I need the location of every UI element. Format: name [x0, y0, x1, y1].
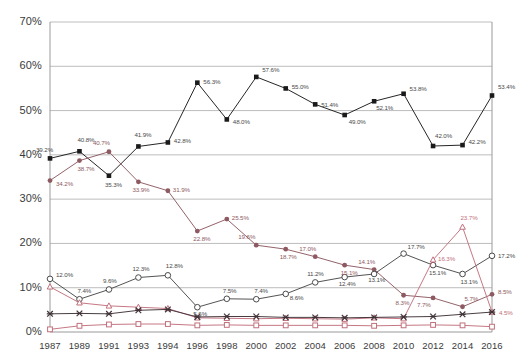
data-point-label: 56.3%: [203, 78, 220, 85]
data-point-label: 35.3%: [105, 181, 122, 188]
data-point-label: 53.4%: [498, 83, 515, 90]
x-axis-tick-label: 2016: [472, 340, 512, 351]
y-axis-tick-label: 30%: [2, 192, 42, 204]
data-point-label: 25.5%: [232, 214, 249, 221]
data-point-label: 13.1%: [368, 276, 385, 283]
line-chart: 0%10%20%30%40%50%60%70% 1987198919911993…: [0, 0, 520, 360]
chart-plot-area: [0, 0, 520, 360]
y-axis-tick-label: 50%: [2, 104, 42, 116]
data-point-label: 5.7%: [465, 295, 479, 302]
data-point-label: 12.4%: [339, 280, 356, 287]
data-point-label: 51.4%: [321, 101, 338, 108]
data-point-label: 15.1%: [429, 269, 446, 276]
series-black-square-series: [48, 75, 495, 178]
data-point-label: 9.6%: [103, 277, 117, 284]
data-point-label: 14.1%: [358, 258, 375, 265]
data-point-label: 7.5%: [223, 287, 237, 294]
data-point-label: 49.0%: [349, 118, 366, 125]
data-point-label: 19.6%: [238, 233, 255, 240]
data-point-label: 4.5%: [499, 309, 513, 316]
data-point-label: 42.0%: [435, 132, 452, 139]
data-point-label: 31.9%: [173, 186, 190, 193]
data-point-label: 48.0%: [233, 118, 250, 125]
data-point-label: 42.8%: [174, 137, 191, 144]
data-point-label: 38.7%: [77, 165, 94, 172]
data-point-label: 8.5%: [498, 288, 512, 295]
data-point-label: 52.1%: [376, 104, 393, 111]
data-point-label: 33.9%: [132, 186, 149, 193]
series-maroon-circle-series: [48, 149, 495, 309]
data-point-label: 23.7%: [461, 214, 478, 221]
data-point-label: 5.6%: [193, 310, 207, 317]
data-point-label: 7.4%: [77, 287, 91, 294]
data-point-label: 55.0%: [292, 83, 309, 90]
y-axis-tick-label: 0%: [2, 325, 42, 337]
data-point-label: 12.0%: [56, 271, 73, 278]
data-point-label: 42.2%: [469, 138, 486, 145]
data-point-label: 57.6%: [262, 66, 279, 73]
data-point-label: 34.2%: [56, 180, 73, 187]
y-axis-tick-label: 60%: [2, 59, 42, 71]
data-point-label: 17.0%: [299, 245, 316, 252]
data-point-label: 22.8%: [193, 235, 210, 242]
series-pink-square-series: [48, 322, 495, 332]
y-axis-tick-label: 20%: [2, 236, 42, 248]
data-point-label: 15.1%: [341, 269, 358, 276]
data-point-label: 13.1%: [461, 278, 478, 285]
data-point-label: 17.2%: [498, 252, 515, 259]
data-point-label: 39.2%: [36, 146, 53, 153]
data-point-label: 11.2%: [307, 270, 324, 277]
y-axis-tick-label: 70%: [2, 15, 42, 27]
data-point-label: 7.7%: [417, 301, 431, 308]
data-point-label: 40.7%: [93, 139, 110, 146]
data-point-label: 18.7%: [280, 253, 297, 260]
y-axis-tick-label: 10%: [2, 281, 42, 293]
data-point-label: 17.7%: [408, 243, 425, 250]
data-point-label: 16.3%: [438, 255, 455, 262]
data-point-label: 12.8%: [166, 262, 183, 269]
data-point-label: 8.3%: [396, 299, 410, 306]
data-point-label: 41.9%: [134, 131, 151, 138]
data-point-label: 8.6%: [290, 294, 304, 301]
data-point-label: 12.3%: [132, 265, 149, 272]
data-point-label: 7.4%: [254, 287, 268, 294]
data-point-label: 53.8%: [410, 85, 427, 92]
